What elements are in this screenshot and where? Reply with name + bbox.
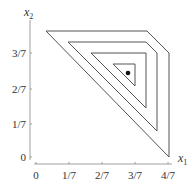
x-tick-label: 3/7: [128, 169, 143, 181]
second-region: [68, 42, 157, 131]
y-tick-label: 2/7: [12, 83, 27, 95]
x-ticks: 01/72/73/74/7: [33, 162, 175, 181]
y-tick-label: 1/7: [12, 118, 27, 130]
outer-region: [46, 31, 169, 157]
nested-regions: [46, 31, 169, 157]
y-tick-label: 0: [21, 151, 27, 163]
diagram-canvas: 01/72/73/74/7 01/72/73/7 x2 x1: [0, 0, 196, 186]
x-axis-label: x1: [177, 151, 187, 167]
inner-region: [113, 64, 135, 86]
x-tick-label: 2/7: [95, 169, 110, 181]
x-tick-label: 0: [33, 169, 39, 181]
x-tick-label: 4/7: [161, 169, 176, 181]
fixed-point: [126, 71, 131, 76]
y-axis-label: x2: [23, 5, 33, 21]
x-tick-label: 1/7: [62, 169, 77, 181]
y-ticks: 01/72/73/7: [12, 47, 32, 163]
y-tick-label: 3/7: [12, 47, 27, 59]
third-region: [91, 53, 146, 108]
